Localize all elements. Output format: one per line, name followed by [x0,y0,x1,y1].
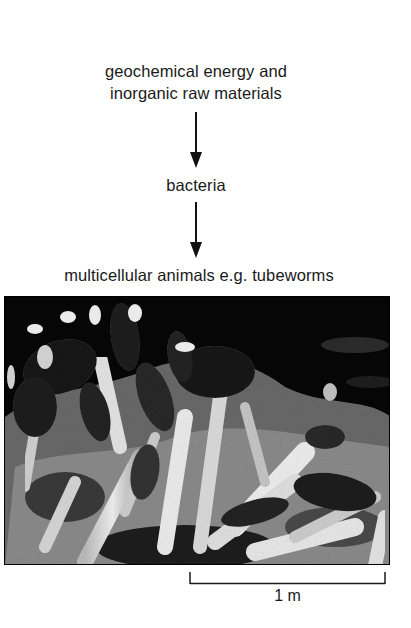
energy-source-line1: geochemical energy and [0,60,392,82]
energy-source-line2: inorganic raw materials [0,82,392,104]
scale-bar [189,571,386,585]
tubeworms-photo [4,296,390,565]
arrow-down-icon [194,112,198,168]
arrow-down-icon [194,202,198,258]
energy-source-label: geochemical energy and inorganic raw mat… [0,60,392,104]
bacteria-label: bacteria [0,174,392,196]
animals-label: multicellular animals e.g. tubeworms [3,264,395,286]
scale-bar-label: 1 m [189,586,386,606]
